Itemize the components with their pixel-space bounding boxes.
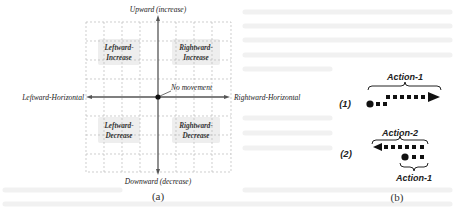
arrow-up-icon [156,15,160,21]
row2-index: (2) [340,148,352,159]
origin-dot [155,94,160,99]
quadrant-top-left-line2: Increase [105,54,132,62]
arrow-right-icon [428,92,440,102]
origin-leader-line [160,91,171,96]
figure-canvas: Upward (increase) Downward (decrease) Le… [0,0,457,215]
row1-action-label: Action-1 [386,72,423,82]
start-dot [401,153,408,160]
arrow-left-icon [86,95,92,99]
quadrant-top-left-line1: Leftward- [103,44,134,52]
quadrant-bottom-right-line1: Rightward- [178,122,213,130]
axis-label-right: Rightward-Horizontal [233,93,300,102]
quadrant-top-right-line1: Rightward- [178,44,213,52]
row2-path [373,143,424,161]
axis-label-up: Upward (increase) [130,5,187,14]
caption-a: (a) [152,190,165,203]
quadrant-bottom-right-line2: Decrease [181,132,210,140]
figure-b: Action-1 (1) Action-2 (2) [339,72,441,204]
origin-label: No movement [170,83,213,92]
start-dot [366,100,373,107]
axis-label-down: Downward (decrease) [124,177,192,186]
caption-b: (b) [391,191,404,204]
row2-action1-label: Action-1 [395,173,432,183]
row1-index: (1) [339,98,351,109]
quadrant-bottom-left-line2: Decrease [104,132,133,140]
figure-a: Upward (increase) Downward (decrease) Le… [21,5,300,203]
arrow-right-icon [224,95,230,99]
quadrant-bottom-left-line1: Leftward- [103,122,134,130]
row1-brace [368,82,441,90]
row1-path [366,92,440,108]
axis-label-left: Leftward-Horizontal [21,93,84,102]
arrow-left-icon [373,143,382,151]
quadrant-top-right-line2: Increase [182,54,209,62]
row2-lower-brace [400,163,428,171]
row2-upper-brace [372,136,428,144]
